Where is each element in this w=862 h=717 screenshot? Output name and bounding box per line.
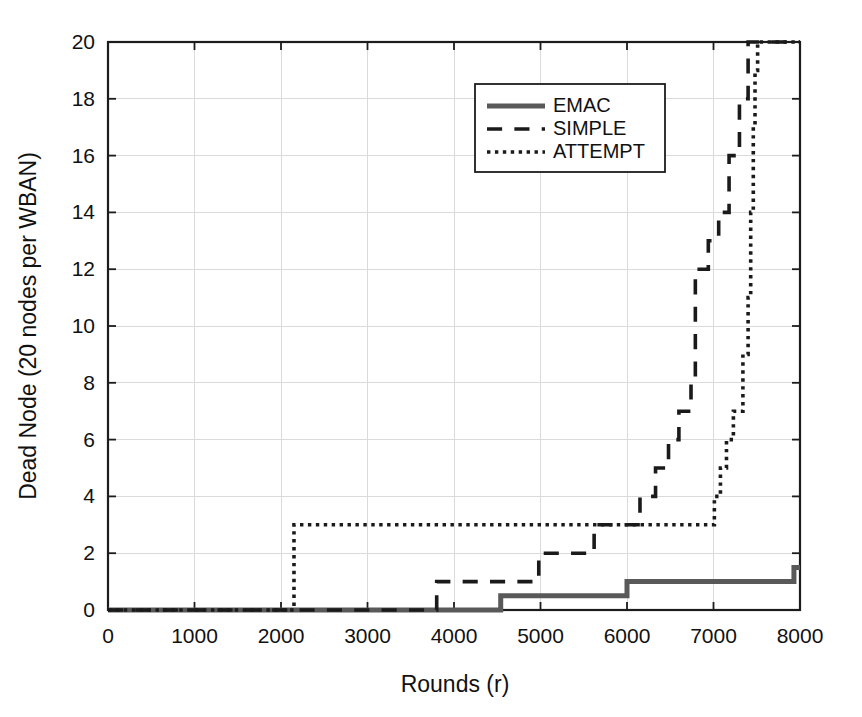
legend[interactable]: EMACSIMPLEATTEMPT: [475, 84, 665, 172]
y-tick-label: 4: [83, 484, 95, 507]
y-axis-title: Dead Node (20 nodes per WBAN): [15, 152, 41, 500]
x-tick-label: 3000: [344, 624, 391, 647]
legend-label-simple: SIMPLE: [553, 117, 626, 139]
x-tick-label: 4000: [431, 624, 478, 647]
y-tick-label: 18: [72, 87, 95, 110]
y-tick-label: 0: [83, 598, 95, 621]
legend-label-emac: EMAC: [553, 94, 611, 116]
y-tick-label: 20: [72, 30, 95, 53]
y-tick-label: 6: [83, 428, 95, 451]
x-tick-label: 0: [102, 624, 114, 647]
y-tick-label: 12: [72, 257, 95, 280]
x-axis-tick-labels: 010002000300040005000600070008000: [102, 624, 823, 647]
x-tick-label: 6000: [604, 624, 651, 647]
x-tick-label: 5000: [517, 624, 564, 647]
y-tick-label: 14: [72, 200, 96, 223]
x-tick-label: 7000: [690, 624, 737, 647]
x-tick-label: 1000: [171, 624, 218, 647]
y-tick-label: 8: [83, 371, 95, 394]
legend-label-attempt: ATTEMPT: [553, 140, 645, 162]
x-tick-label: 2000: [258, 624, 305, 647]
x-tick-label: 8000: [777, 624, 824, 647]
x-axis-title: Rounds (r): [401, 671, 510, 697]
y-tick-label: 10: [72, 314, 95, 337]
y-tick-label: 2: [83, 541, 95, 564]
chart-svg: 02468101214161820 0100020003000400050006…: [0, 0, 862, 717]
chart-figure: 02468101214161820 0100020003000400050006…: [0, 0, 862, 717]
y-axis-tick-labels: 02468101214161820: [72, 30, 96, 621]
y-tick-label: 16: [72, 144, 95, 167]
